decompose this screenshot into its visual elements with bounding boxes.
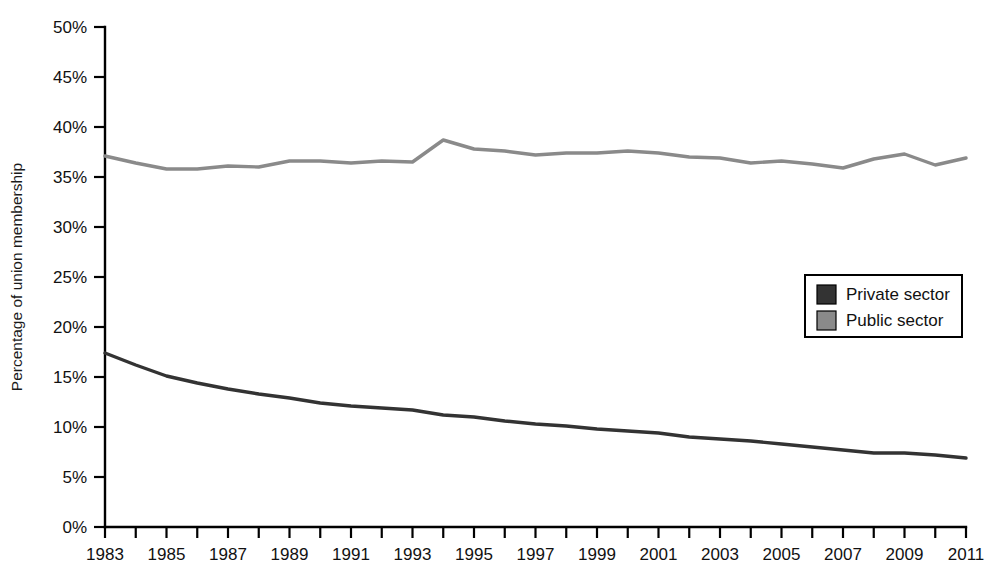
x-tick-label: 1983: [86, 545, 124, 564]
y-tick-label: 30%: [53, 218, 87, 237]
y-tick-label: 40%: [53, 118, 87, 137]
series-line-public-sector: [105, 140, 966, 169]
union-membership-line-chart: 0%5%10%15%20%25%30%35%40%45%50% 19831985…: [0, 0, 996, 577]
legend-label-private-sector: Private sector: [846, 285, 950, 304]
y-tick-label: 45%: [53, 68, 87, 87]
y-axis-ticks: 0%5%10%15%20%25%30%35%40%45%50%: [53, 18, 105, 537]
x-tick-label: 1993: [394, 545, 432, 564]
legend-label-public-sector: Public sector: [846, 311, 944, 330]
x-tick-label: 2001: [640, 545, 678, 564]
x-tick-label: 1987: [209, 545, 247, 564]
x-tick-label: 1999: [578, 545, 616, 564]
y-tick-label: 15%: [53, 368, 87, 387]
x-tick-label: 2003: [701, 545, 739, 564]
chart-legend[interactable]: Private sector Public sector: [805, 275, 962, 337]
chart-canvas: 0%5%10%15%20%25%30%35%40%45%50% 19831985…: [0, 0, 996, 577]
series-line-private-sector: [105, 353, 966, 458]
y-tick-label: 25%: [53, 268, 87, 287]
x-tick-label: 1997: [517, 545, 555, 564]
y-tick-label: 35%: [53, 168, 87, 187]
x-tick-label: 2005: [763, 545, 801, 564]
x-tick-label: 1995: [455, 545, 493, 564]
x-tick-label: 2007: [824, 545, 862, 564]
y-tick-label: 20%: [53, 318, 87, 337]
y-tick-label: 10%: [53, 418, 87, 437]
legend-swatch-private-sector: [817, 285, 836, 304]
x-tick-label: 1985: [148, 545, 186, 564]
y-tick-label: 0%: [62, 518, 87, 537]
x-axis-ticks: 1983198519871989199119931995199719992001…: [86, 527, 984, 564]
y-axis-title: Percentage of union membership: [8, 163, 25, 391]
x-tick-label: 1991: [332, 545, 370, 564]
x-tick-label: 2009: [886, 545, 924, 564]
y-tick-label: 50%: [53, 18, 87, 37]
legend-swatch-public-sector: [817, 311, 836, 330]
x-tick-label: 1989: [271, 545, 309, 564]
x-tick-label: 2011: [948, 545, 985, 564]
y-tick-label: 5%: [62, 468, 87, 487]
